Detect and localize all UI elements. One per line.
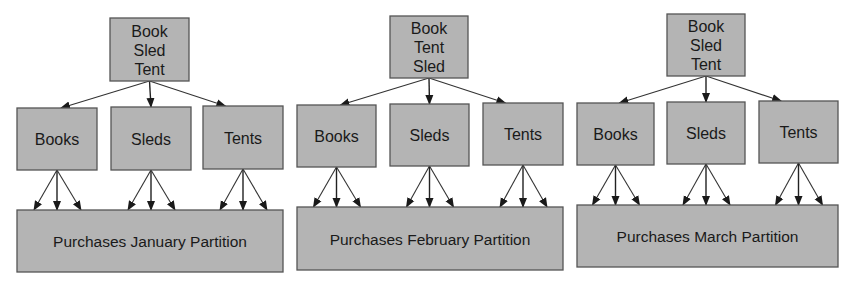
table-label: Sleds xyxy=(409,127,449,144)
root-table-label: Sled xyxy=(413,58,445,75)
arrow-connector xyxy=(523,165,547,207)
root-table-label: Tent xyxy=(414,39,445,56)
table-box-books: Books xyxy=(577,103,654,165)
root-table-label: Tent xyxy=(691,56,722,73)
arrow-connector xyxy=(407,166,430,207)
arrow-connector xyxy=(430,166,454,207)
root-table-label: Book xyxy=(688,18,725,35)
arrow-connector xyxy=(34,170,57,210)
arrow-connector xyxy=(706,76,781,101)
arrow-connector xyxy=(150,81,226,106)
root-table-label: Sled xyxy=(690,37,722,54)
table-box-sleds: Sleds xyxy=(111,107,191,170)
arrow-connector xyxy=(340,78,429,105)
arrow-connector xyxy=(151,170,175,210)
partition-box: Purchases March Partition xyxy=(577,205,838,267)
table-box-tents: Tents xyxy=(483,103,563,165)
root-table-box: BookSledTent xyxy=(667,14,745,76)
table-box-sleds: Sleds xyxy=(390,104,469,166)
arrow-connector xyxy=(429,78,505,103)
arrow-connector xyxy=(593,165,616,205)
arrow-connector xyxy=(776,163,799,205)
table-box-sleds: Sleds xyxy=(667,102,745,164)
partition-diagram-february: BookTentSledBooksSledsTentsPurchases Feb… xyxy=(297,16,563,270)
arrow-connector xyxy=(619,76,706,103)
partition-label: Purchases March Partition xyxy=(617,228,799,245)
arrow-connector xyxy=(243,169,267,210)
table-box-books: Books xyxy=(17,108,97,170)
table-label: Sleds xyxy=(686,125,726,142)
root-table-box: BookTentSled xyxy=(390,16,468,78)
table-label: Books xyxy=(314,128,358,145)
arrow-connector xyxy=(150,81,152,107)
table-box-books: Books xyxy=(297,105,376,167)
table-box-tents: Tents xyxy=(759,101,838,163)
table-label: Books xyxy=(35,131,79,148)
table-box-tents: Tents xyxy=(203,106,283,169)
arrow-connector xyxy=(706,164,730,205)
partition-diagram-march: BookSledTentBooksSledsTentsPurchases Mar… xyxy=(577,14,838,267)
partition-box: Purchases February Partition xyxy=(297,207,563,270)
root-table-label: Book xyxy=(411,20,448,37)
arrow-connector xyxy=(799,163,823,205)
partition-label: Purchases February Partition xyxy=(330,231,531,248)
arrow-connector xyxy=(314,167,337,207)
partition-diagram-january: BookSledTentBooksSledsTentsPurchases Jan… xyxy=(17,18,283,272)
arrow-connector xyxy=(683,164,706,205)
table-label: Sleds xyxy=(131,131,171,148)
table-label: Tents xyxy=(779,124,817,141)
arrow-connector xyxy=(429,78,430,104)
root-table-label: Tent xyxy=(134,61,165,78)
root-table-box: BookSledTent xyxy=(110,18,189,81)
table-label: Tents xyxy=(224,130,262,147)
arrow-connector xyxy=(61,81,150,108)
partition-diagrams: BookSledTentBooksSledsTentsPurchases Jan… xyxy=(0,0,852,281)
partition-box: Purchases January Partition xyxy=(17,210,283,272)
arrow-connector xyxy=(128,170,151,210)
arrow-connector xyxy=(57,170,81,210)
partition-label: Purchases January Partition xyxy=(53,233,247,250)
arrow-connector xyxy=(337,167,361,207)
arrow-connector xyxy=(220,169,243,210)
arrow-connector xyxy=(500,165,523,207)
arrow-connector xyxy=(616,165,640,205)
table-label: Books xyxy=(593,126,637,143)
root-table-label: Book xyxy=(131,23,168,40)
table-label: Tents xyxy=(504,126,542,143)
root-table-label: Sled xyxy=(133,42,165,59)
